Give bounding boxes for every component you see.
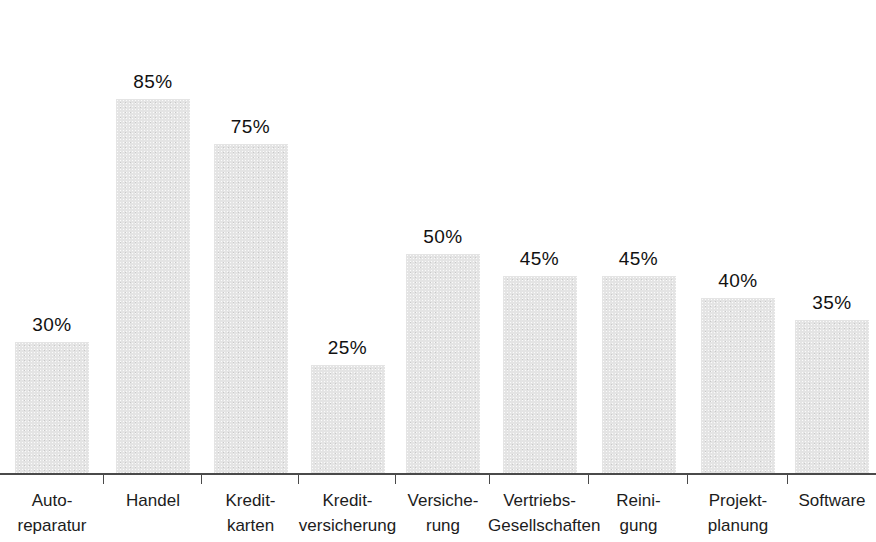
x-axis-label: Auto- reparatur xyxy=(0,488,104,538)
bar[interactable] xyxy=(311,365,385,476)
bar-chart: 30% 85% 75% 25% 50% 45% 45% 40% xyxy=(0,0,876,542)
bar-group: 30% xyxy=(0,0,104,475)
bar[interactable] xyxy=(701,298,775,475)
axis-tick xyxy=(201,475,202,484)
axis-tick xyxy=(787,475,788,484)
bar[interactable] xyxy=(116,99,190,475)
x-axis-label: Reini- gung xyxy=(589,488,688,538)
bar-value-label: 35% xyxy=(812,293,852,312)
x-axis-label: Versiche- rung xyxy=(396,488,490,538)
axis-tick xyxy=(588,475,589,484)
bar[interactable] xyxy=(602,276,676,475)
bar-group: 40% xyxy=(688,0,788,475)
axis-tick xyxy=(298,475,299,484)
plot-area: 30% 85% 75% 25% 50% 45% 45% 40% xyxy=(0,0,876,475)
x-axis-line xyxy=(0,473,876,475)
axis-tick xyxy=(103,475,104,484)
bar-group: 35% xyxy=(788,0,876,475)
bar-group: 50% xyxy=(396,0,490,475)
axis-tick xyxy=(395,475,396,484)
bar-value-label: 30% xyxy=(32,315,72,334)
axis-tick xyxy=(489,475,490,484)
bar[interactable] xyxy=(15,342,89,475)
bar[interactable] xyxy=(503,276,577,475)
x-axis-label: Vertriebs- Gesellschaften xyxy=(488,488,591,538)
bar-value-label: 40% xyxy=(718,271,758,290)
bar-group: 75% xyxy=(202,0,299,475)
bar-value-label: 50% xyxy=(423,227,463,246)
bar-group: 45% xyxy=(490,0,589,475)
bar-value-label: 45% xyxy=(520,249,560,268)
bar[interactable] xyxy=(214,144,288,476)
bar-group: 85% xyxy=(104,0,202,475)
x-axis-label: Handel xyxy=(104,488,202,513)
x-axis-labels: Auto- reparatur Handel Kredit- karten Kr… xyxy=(0,488,876,542)
x-axis-label: Projekt- planung xyxy=(688,488,788,538)
bar-value-label: 25% xyxy=(328,338,368,357)
bar-group: 45% xyxy=(589,0,688,475)
bar-value-label: 85% xyxy=(133,72,173,91)
bar-value-label: 45% xyxy=(619,249,659,268)
bar-group: 25% xyxy=(299,0,396,475)
x-axis-label: Kredit- versicherung xyxy=(297,488,398,538)
x-axis-label: Software xyxy=(788,488,876,513)
axis-tick xyxy=(687,475,688,484)
bar[interactable] xyxy=(406,254,480,475)
bar-value-label: 75% xyxy=(231,117,271,136)
bar[interactable] xyxy=(795,320,869,475)
x-axis-label: Kredit- karten xyxy=(202,488,299,538)
